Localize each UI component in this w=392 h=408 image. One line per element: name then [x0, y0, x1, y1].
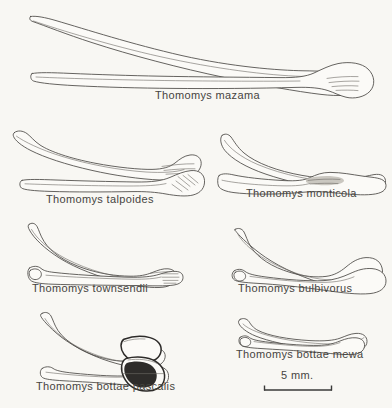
caption-thomomys-talpoides: Thomomys talpoides	[46, 194, 154, 205]
caption-thomomys-townsendii: Thomomys townsendii	[32, 283, 148, 294]
caption-thomomys-bottae-mewa: Thomomys bottae mewa	[236, 349, 363, 360]
figure-plate: Thomomys mazama Thomomys talpoides Thomo…	[0, 0, 392, 408]
bone-base-knob-townsendii	[29, 269, 41, 280]
caption-thomomys-bottae-pascalis: Thomomys bottae pascalis	[36, 381, 175, 392]
caption-thomomys-bulbivorus: Thomomys bulbivorus	[238, 283, 352, 294]
caption-thomomys-monticola: Thomomys monticola	[246, 188, 357, 199]
caption-thomomys-mazama: Thomomys mazama	[155, 90, 260, 101]
scale-bar-graphic	[264, 386, 332, 391]
bone-outline-talpoides-lateral	[13, 131, 201, 180]
bone-base-knob-mewa	[240, 337, 251, 346]
bone-base-knob-bulbivorus	[234, 271, 246, 281]
specimen-talpoides-lateral-view	[13, 131, 201, 180]
scale-bar-label: 5 mm.	[281, 370, 314, 381]
